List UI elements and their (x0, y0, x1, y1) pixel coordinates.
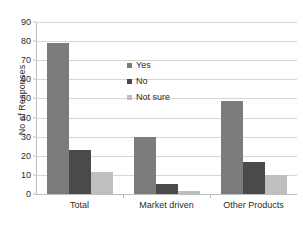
y-axis-tick-mark (33, 117, 36, 118)
x-axis-label: Total (70, 200, 89, 210)
y-axis-tick-label: 80 (21, 36, 31, 46)
bar-notsure (91, 172, 113, 194)
y-axis-tick-mark (33, 41, 36, 42)
bar-notsure (178, 191, 200, 194)
bar-no (69, 150, 91, 194)
chart-legend: YesNoNot sure (127, 57, 170, 105)
legend-swatch-icon (127, 95, 132, 100)
y-axis-tick-label: 0 (26, 189, 31, 199)
y-axis-tick-label: 20 (21, 151, 31, 161)
bar-yes (221, 101, 243, 194)
legend-swatch-icon (127, 79, 132, 84)
y-axis-tick-mark (33, 98, 36, 99)
legend-item: Not sure (127, 89, 170, 105)
x-axis-label: Market driven (139, 200, 194, 210)
bar-notsure (265, 175, 287, 194)
bar-yes (134, 137, 156, 194)
x-axis-label: Other Products (223, 200, 284, 210)
bar-no (243, 162, 265, 194)
plot-area: 0102030405060708090 (36, 22, 297, 194)
bar-chart: No of Responses 0102030405060708090 Tota… (0, 0, 303, 225)
gridline (36, 137, 297, 138)
legend-label: Not sure (136, 92, 170, 102)
y-axis-tick-label: 10 (21, 170, 31, 180)
y-axis-tick-label: 30 (21, 132, 31, 142)
gridline (36, 41, 297, 42)
category-separator (123, 194, 124, 198)
legend-label: No (136, 76, 148, 86)
y-axis-tick-label: 70 (21, 55, 31, 65)
bar-no (156, 184, 178, 194)
y-axis-tick-label: 50 (21, 93, 31, 103)
legend-item: Yes (127, 57, 170, 73)
y-axis-tick-label: 60 (21, 74, 31, 84)
bar-yes (47, 43, 69, 194)
legend-swatch-icon (127, 63, 132, 68)
gridline (36, 194, 297, 195)
y-axis-tick-mark (33, 79, 36, 80)
y-axis-tick-mark (33, 22, 36, 23)
y-axis-tick-mark (33, 174, 36, 175)
legend-label: Yes (136, 60, 151, 70)
y-axis-line (36, 22, 37, 194)
y-axis-tick-mark (33, 194, 36, 195)
gridline (36, 22, 297, 23)
y-axis-tick-mark (33, 136, 36, 137)
y-axis-tick-label: 40 (21, 113, 31, 123)
category-separator (210, 194, 211, 198)
gridline (36, 118, 297, 119)
y-axis-tick-label: 90 (21, 17, 31, 27)
y-axis-tick-mark (33, 60, 36, 61)
y-axis-tick-mark (33, 155, 36, 156)
legend-item: No (127, 73, 170, 89)
